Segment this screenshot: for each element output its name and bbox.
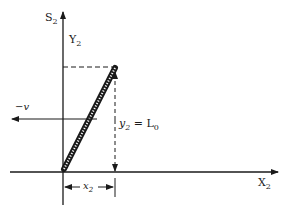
y2-axis-label: Y2 (68, 33, 81, 48)
s2-axis-label: S2 (45, 11, 58, 26)
velocity-label: −v (15, 101, 29, 112)
rod-diagram: S2 Y2 X2 −v y2 = L0 x2 (0, 0, 286, 213)
offset-label: x2 (83, 180, 94, 194)
x2-axis-label: X2 (258, 176, 271, 191)
height-label: y2 = L0 (118, 117, 159, 132)
